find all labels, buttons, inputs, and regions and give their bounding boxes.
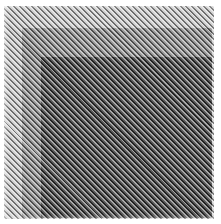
diagonal-stripe-pattern: [4, 6, 214, 219]
